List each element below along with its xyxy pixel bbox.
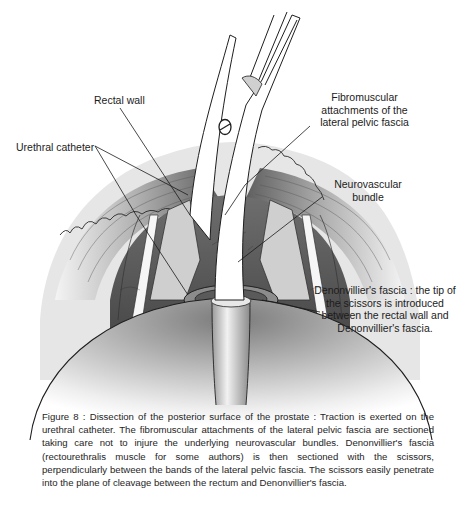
figure: Rectal wall Urethral catheter Fibromuscu… <box>0 0 470 505</box>
label-line: Denonvillier's fascia. <box>305 322 465 335</box>
label-line: Neurovascular <box>328 178 408 191</box>
label-line: the scissors is introduced <box>305 297 465 310</box>
label-rectal-wall: Rectal wall <box>94 94 145 107</box>
label-line: attachments of the <box>302 104 427 117</box>
label-urethral-catheter: Urethral catheter <box>16 141 94 154</box>
label-fibromuscular-attachments: Fibromuscular attachments of the lateral… <box>302 91 427 129</box>
label-line: lateral pelvic fascia <box>302 116 427 129</box>
label-denonvillier-fascia: Denonvillier's fascia : the tip of the s… <box>305 284 465 334</box>
label-line: between the rectal wall and <box>305 309 465 322</box>
label-line: Denonvillier's fascia : the tip of <box>305 284 465 297</box>
label-line: Fibromuscular <box>302 91 427 104</box>
label-line: bundle <box>328 191 408 204</box>
label-neurovascular-bundle: Neurovascular bundle <box>328 178 408 203</box>
figure-caption: Figure 8 : Dissection of the posterior s… <box>42 410 434 489</box>
